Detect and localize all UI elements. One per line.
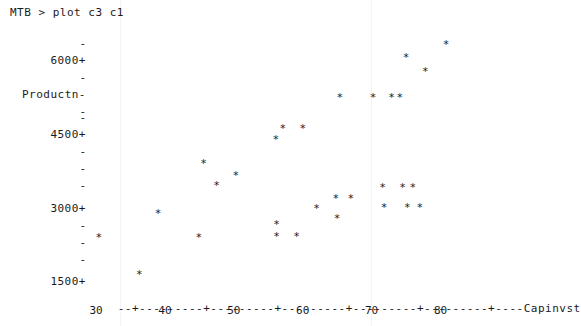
x-axis-tick-label: 40 <box>158 305 171 316</box>
data-point-marker: * <box>200 158 208 169</box>
data-point-marker: * <box>421 65 429 76</box>
data-point-marker: * <box>396 92 404 103</box>
data-point-marker: * <box>279 122 287 133</box>
y-axis-tick-mark: - <box>79 237 86 248</box>
y-axis-tick-label: 1500+ <box>50 276 86 287</box>
y-axis: -6000+-Productn---4500+---3000+---1500+ <box>0 0 86 326</box>
y-axis-tick-label: 6000+ <box>50 55 86 66</box>
y-axis-tick-mark: - <box>79 72 86 83</box>
data-point-marker: * <box>195 231 203 242</box>
data-point-marker: * <box>273 218 281 229</box>
data-point-marker: * <box>272 133 280 144</box>
x-tick-labels: 304050607080 <box>0 305 523 319</box>
y-axis-tick-mark: - <box>79 220 86 231</box>
data-point-marker: * <box>442 38 450 49</box>
data-point-marker: * <box>135 269 143 280</box>
data-point-marker: * <box>313 202 321 213</box>
data-point-marker: * <box>232 169 240 180</box>
data-point-marker: * <box>336 92 344 103</box>
data-point-marker: * <box>409 181 417 192</box>
x-axis-tick-label: 80 <box>434 305 447 316</box>
data-point-marker: * <box>333 212 341 223</box>
y-axis-tick-mark: - <box>79 38 86 49</box>
data-point-marker: * <box>402 52 410 63</box>
data-point-marker: * <box>416 201 424 212</box>
data-point-marker: * <box>380 201 388 212</box>
data-point-marker: * <box>154 207 162 218</box>
data-point-marker: * <box>347 192 355 203</box>
data-point-marker: * <box>399 181 407 192</box>
y-axis-tick-label: 4500+ <box>50 129 86 140</box>
data-point-marker: * <box>273 231 281 242</box>
x-axis-tick-label: 50 <box>227 305 240 316</box>
x-axis-tick-label: 60 <box>296 305 309 316</box>
y-axis-tick-label: 3000+ <box>50 203 86 214</box>
data-point-marker: * <box>332 192 340 203</box>
y-axis-tick-mark: - <box>79 254 86 265</box>
y-axis-tick-mark: - <box>79 180 86 191</box>
data-point-marker: * <box>213 179 221 190</box>
x-axis-tick-label: 70 <box>365 305 378 316</box>
data-point-marker: * <box>369 92 377 103</box>
y-axis-tick-mark: - <box>79 146 86 157</box>
data-point-marker: * <box>299 122 307 133</box>
data-point-marker: * <box>95 231 103 242</box>
data-point-marker: * <box>379 181 387 192</box>
y-axis-tick-mark: - <box>79 163 86 174</box>
data-point-marker: * <box>403 201 411 212</box>
data-point-marker: * <box>293 231 301 242</box>
x-axis-title: Capinvst <box>524 302 581 315</box>
x-axis-tick-label: 30 <box>89 305 102 316</box>
y-axis-tick-mark: - <box>79 112 86 123</box>
data-point-marker: * <box>388 92 396 103</box>
y-axis-tick-label: Productn- <box>22 89 86 100</box>
